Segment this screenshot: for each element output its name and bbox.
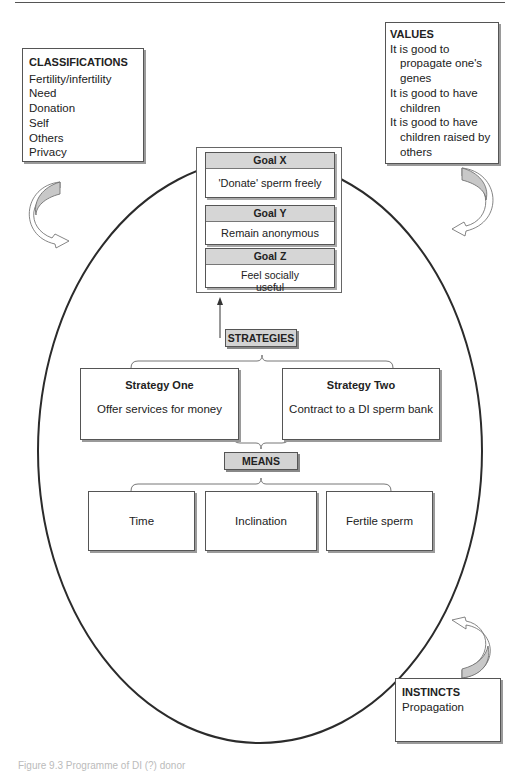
goal-title: Goal Z xyxy=(206,249,334,265)
values-box: VALUES It is good to propagate one's gen… xyxy=(385,22,499,164)
strategy-text: Contract to a DI sperm bank xyxy=(283,403,439,415)
curved-arrow-icon xyxy=(29,182,69,248)
classification-item: Fertility/infertility xyxy=(29,72,137,87)
classification-item: Self xyxy=(29,116,137,131)
strategy-two: Strategy Two Contract to a DI sperm bank xyxy=(282,368,440,440)
goal-x: Goal X 'Donate' sperm freely xyxy=(205,152,335,198)
means-time: Time xyxy=(88,491,195,551)
goal-z: Goal Z Feel socially useful xyxy=(205,248,335,288)
value-item-cont: propagate one's xyxy=(390,56,494,71)
value-item-cont: others xyxy=(390,145,494,160)
goal-text: Feel socially useful xyxy=(206,265,334,297)
classification-item: Donation xyxy=(29,101,137,116)
goal-text: Remain anonymous xyxy=(206,222,334,244)
means-inclination: Inclination xyxy=(205,491,317,551)
value-item-cont: children raised by xyxy=(390,130,494,145)
instincts-title: INSTINCTS xyxy=(402,685,494,700)
goals-frame: Goal X 'Donate' sperm freely Goal Y Rema… xyxy=(196,147,342,293)
means-fertile-sperm: Fertile sperm xyxy=(326,491,433,551)
value-item: It is good to xyxy=(390,42,494,57)
values-title: VALUES xyxy=(390,27,494,42)
classifications-box: CLASSIFICATIONS Fertility/infertility Ne… xyxy=(22,48,144,162)
value-item: It is good to have xyxy=(390,86,494,101)
means-text: Time xyxy=(129,515,154,527)
strategy-title: Strategy Two xyxy=(283,379,439,391)
goal-title: Goal X xyxy=(206,153,334,169)
value-item-cont: genes xyxy=(390,71,494,86)
strategies-label: STRATEGIES xyxy=(225,329,297,347)
strategy-title: Strategy One xyxy=(81,379,238,391)
instinct-item: Propagation xyxy=(402,700,494,715)
goal-y: Goal Y Remain anonymous xyxy=(205,205,335,245)
strategy-one: Strategy One Offer services for money xyxy=(80,368,239,440)
means-label: MEANS xyxy=(224,452,298,470)
goal-title: Goal Y xyxy=(206,206,334,222)
classification-item: Need xyxy=(29,86,137,101)
classifications-title: CLASSIFICATIONS xyxy=(29,55,137,70)
value-item-cont: children xyxy=(390,101,494,116)
classification-item: Privacy xyxy=(29,145,137,160)
curved-arrow-icon xyxy=(452,617,490,678)
instincts-box: INSTINCTS Propagation xyxy=(395,678,501,742)
value-item: It is good to have xyxy=(390,115,494,130)
means-text: Fertile sperm xyxy=(346,515,413,527)
goal-text: 'Donate' sperm freely xyxy=(206,169,334,197)
curved-arrow-icon xyxy=(452,168,493,236)
figure-caption: Figure 9.3 Programme of DI (?) donor xyxy=(18,760,185,771)
classification-item: Others xyxy=(29,131,137,146)
means-text: Inclination xyxy=(235,515,287,527)
strategy-text: Offer services for money xyxy=(81,403,238,415)
